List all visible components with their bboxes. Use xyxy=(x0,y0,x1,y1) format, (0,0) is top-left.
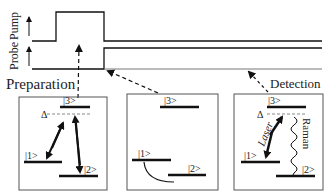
evolution-panel: |3> |1> |2> xyxy=(127,94,218,190)
det-level3-label: |3> xyxy=(268,95,281,106)
raman-label: Raman xyxy=(301,118,313,150)
probe-label: Probe xyxy=(7,42,21,70)
prep-detuning-label: Δ xyxy=(41,109,48,120)
preparation-dashed-arrow xyxy=(78,46,79,98)
det-level2-label: |2> xyxy=(302,164,315,175)
detection-dashed-arrow xyxy=(249,72,268,92)
prep-level2-label: |2> xyxy=(84,164,97,175)
prep-level3-label: |3> xyxy=(63,95,76,106)
detection-panel: |3> Δ |1> |2> Laser Raman xyxy=(234,94,323,190)
pump-probe-diagram: Pump Probe Preparation Detection |3> Δ |… xyxy=(0,0,334,195)
evo-level1-label: |1> xyxy=(138,148,151,159)
preparation-panel: |3> Δ |1> |2> xyxy=(19,95,107,190)
det-detuning-label: Δ xyxy=(257,109,264,120)
evo-level3-label: |3> xyxy=(164,95,177,106)
pump-trace xyxy=(29,12,322,41)
probe-trace xyxy=(29,47,322,69)
evo-level2-label: |2> xyxy=(188,163,201,174)
det-level1-label: |1> xyxy=(244,150,257,161)
evolution-dashed-arrow xyxy=(108,71,158,93)
detection-label: Detection xyxy=(270,76,321,91)
decay-curve xyxy=(144,162,174,182)
preparation-label: Preparation xyxy=(6,76,76,92)
prep-level1-label: |1> xyxy=(25,150,38,161)
raman-wave xyxy=(291,117,297,177)
pump-label: Pump xyxy=(7,12,21,40)
